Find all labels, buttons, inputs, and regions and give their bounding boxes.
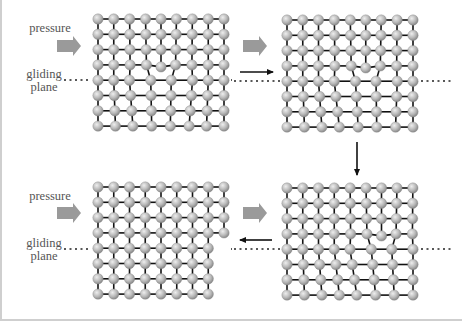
atom — [185, 106, 195, 116]
atom — [140, 212, 150, 222]
atom — [156, 274, 166, 284]
atom — [109, 44, 119, 54]
atom — [282, 229, 292, 239]
atom — [146, 106, 156, 116]
atom — [361, 30, 371, 40]
atom — [187, 197, 197, 207]
atom — [329, 244, 339, 254]
atom — [203, 29, 213, 39]
atom — [93, 274, 103, 284]
lattice-panel-top-left — [57, 14, 232, 132]
atom — [376, 213, 386, 223]
atom — [345, 229, 355, 239]
atom — [203, 289, 213, 299]
atom — [298, 259, 308, 269]
gliding-plane-label-top: gliding plane — [20, 68, 68, 94]
atom — [187, 44, 197, 54]
atom — [109, 29, 119, 39]
atom — [391, 198, 401, 208]
atom — [109, 289, 119, 299]
atom — [366, 244, 376, 254]
atom — [124, 212, 134, 222]
atom — [93, 243, 103, 253]
atom — [109, 182, 119, 192]
atom — [109, 75, 119, 85]
atom — [187, 243, 197, 253]
atom — [172, 243, 182, 253]
pressure-arrow-icon — [243, 36, 267, 56]
atom — [203, 44, 213, 54]
atom — [408, 15, 418, 25]
atom — [361, 15, 371, 25]
atom — [109, 197, 119, 207]
atom — [329, 30, 339, 40]
atom — [345, 183, 355, 193]
atom — [186, 90, 196, 100]
atom — [93, 182, 103, 192]
atom — [140, 182, 150, 192]
atom — [219, 106, 229, 116]
atom — [298, 91, 308, 101]
atom — [299, 275, 309, 285]
atom — [187, 75, 197, 85]
atom — [93, 75, 103, 85]
atom — [219, 75, 229, 85]
atom — [93, 14, 103, 24]
atom — [361, 63, 371, 73]
atom — [203, 274, 213, 284]
atom — [369, 275, 379, 285]
atom — [408, 259, 418, 269]
atom — [146, 90, 156, 100]
figure-frame: pressure gliding plane pressure gliding … — [0, 0, 462, 321]
atom — [125, 60, 135, 70]
atom — [156, 258, 166, 268]
gliding-plane-label-bottom: gliding plane — [20, 237, 68, 263]
atom — [125, 90, 135, 100]
atom — [166, 90, 176, 100]
atom — [219, 182, 229, 192]
atom — [124, 14, 134, 24]
atom — [93, 106, 103, 116]
dislocation-diagram — [2, 0, 462, 321]
atom — [187, 258, 197, 268]
atom — [313, 244, 323, 254]
atom — [109, 14, 119, 24]
atom — [376, 30, 386, 40]
atom — [203, 60, 213, 70]
atom — [93, 258, 103, 268]
atom — [203, 258, 213, 268]
atom — [93, 44, 103, 54]
atom — [408, 107, 418, 117]
atom — [187, 274, 197, 284]
atom — [329, 183, 339, 193]
atom — [203, 75, 213, 85]
atom — [408, 122, 418, 132]
atom — [203, 212, 213, 222]
atom — [313, 30, 323, 40]
atom — [390, 122, 400, 132]
atom — [124, 228, 134, 238]
atom — [392, 30, 402, 40]
atom — [93, 212, 103, 222]
atom — [316, 107, 326, 117]
atom — [282, 244, 292, 254]
atom — [408, 183, 418, 193]
atom — [172, 274, 182, 284]
atom — [146, 75, 156, 85]
atom — [351, 91, 361, 101]
atom — [125, 44, 135, 54]
atom — [331, 91, 341, 101]
atom — [313, 61, 323, 71]
atom — [332, 107, 342, 117]
atom — [329, 229, 339, 239]
atom — [392, 15, 402, 25]
atom — [371, 107, 381, 117]
atom — [313, 45, 323, 55]
atom — [187, 60, 197, 70]
atom — [170, 60, 180, 70]
atom — [408, 45, 418, 55]
atom — [202, 106, 212, 116]
atom — [375, 45, 385, 55]
atom — [282, 213, 292, 223]
atom — [282, 183, 292, 193]
